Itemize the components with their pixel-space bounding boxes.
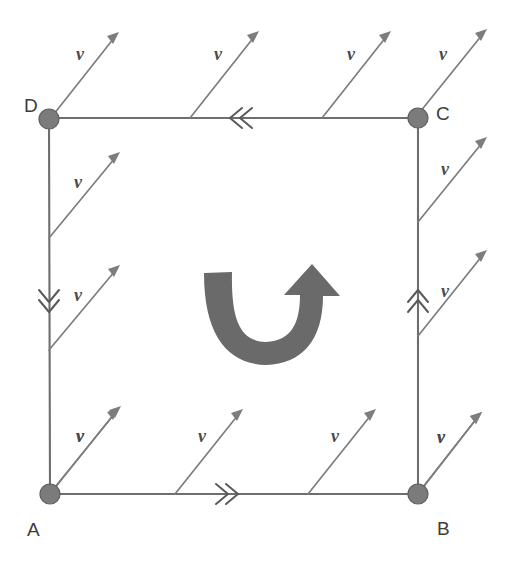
rotation-arrow [204,264,340,365]
physics-diagram: D C A B v v v v v v v v v v v v v v [0,0,512,564]
arrowhead-icon [475,137,487,149]
arrowhead-icon [379,31,391,43]
velocity-vector [418,137,487,222]
velocity-label: v [74,172,83,192]
arrowhead-icon [364,409,376,421]
velocity-label: v [76,426,85,446]
velocity-label: v [74,285,83,305]
node-label-B: B [437,518,450,539]
node-dot-C [408,108,428,128]
velocity-vector [175,409,243,494]
velocity-label: v [76,44,85,64]
vector-shaft [418,418,477,494]
velocity-vector [49,152,120,238]
velocity-label: v [441,281,450,301]
velocity-labels: v v v v v v v v v v v v v v [74,44,450,447]
velocity-vector [418,412,482,494]
velocity-label: v [331,426,340,446]
edge-AD [49,119,50,494]
velocity-vector [420,29,487,112]
node-dot-A [40,484,60,504]
node-label-D: D [24,95,38,116]
velocity-label: v [437,427,446,447]
velocity-vector [418,250,487,336]
velocity-vector [50,32,119,119]
velocity-vector [190,31,259,118]
node-dot-B [408,484,428,504]
node-label-C: C [436,103,450,124]
arrowhead-icon [231,409,243,421]
velocity-vector [50,408,119,494]
arrowhead-icon [475,29,487,41]
node-labels: D C A B [24,95,450,540]
vector-shaft [190,37,254,118]
velocity-vector [322,31,391,118]
node-dot-D [39,109,59,129]
arrowhead-icon [475,250,487,262]
velocity-label: v [198,426,207,446]
velocity-label: v [441,159,450,179]
velocity-label: v [439,44,448,64]
velocity-vector [308,409,376,494]
arrowhead-icon [470,412,482,424]
arrowhead-icon [108,152,120,164]
vector-shaft [49,158,115,238]
vector-shaft [418,143,482,222]
curved-arrow-icon [204,264,340,365]
arrowhead-icon [107,32,119,44]
diagram-canvas: D C A B v v v v v v v v v v v v v v [0,0,512,564]
vector-shaft [175,415,238,494]
velocity-label: v [347,44,356,64]
vector-shaft [308,415,371,494]
node-label-A: A [27,519,40,540]
velocity-vector [49,265,120,350]
velocity-label: v [214,44,223,64]
arrowhead-icon [108,265,120,277]
arrowhead-icon [247,31,259,43]
vector-shaft [418,256,482,336]
vector-shaft [420,35,482,112]
velocity-vectors [49,29,487,494]
vector-shaft [49,271,115,350]
